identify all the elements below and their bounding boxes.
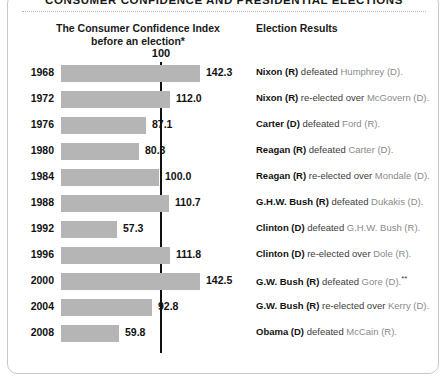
chart-row: 197687.1Carter (D) defeated Ford (R). (8, 114, 440, 140)
row-year-label: 2000 (22, 274, 54, 286)
row-bar (61, 65, 200, 82)
row-bar (61, 247, 170, 264)
election-result-text: G.W. Bush (R) defeated Gore (D).** (256, 274, 438, 287)
election-result-text: Clinton (D) defeated G.H.W. Bush (R). (256, 222, 438, 233)
result-verb: re-elected over (319, 300, 388, 311)
loser-name: Gore (D). (362, 276, 402, 287)
result-verb: defeated (298, 66, 340, 77)
winner-name: Nixon (R) (256, 66, 298, 77)
election-result-text: Reagan (R) re-elected over Mondale (D). (256, 170, 438, 181)
row-year-label: 2008 (22, 326, 54, 338)
election-result-text: G.H.W. Bush (R) defeated Dukakis (D). (256, 196, 438, 207)
right-column-header: Election Results (256, 22, 436, 34)
row-bar (61, 299, 152, 316)
reference-value-label: 100 (138, 47, 184, 59)
result-verb: defeated (300, 118, 342, 129)
bar-fill (61, 117, 146, 134)
bar-value-label: 92.8 (158, 300, 178, 312)
row-year-label: 1980 (22, 144, 54, 156)
bar-value-label: 142.3 (206, 66, 232, 78)
bar-value-label: 111.8 (176, 248, 201, 260)
row-year-label: 1992 (22, 222, 54, 234)
chart-row: 200492.8G.W. Bush (R) re-elected over Ke… (8, 296, 440, 322)
row-year-label: 1996 (22, 248, 54, 260)
election-result-text: G.W. Bush (R) re-elected over Kerry (D). (256, 300, 438, 311)
result-verb: re-elected over (298, 92, 367, 103)
bar-fill (61, 247, 170, 264)
chart-title: CONSUMER CONFIDENCE AND PRESIDENTIAL ELE… (8, 0, 440, 6)
bar-value-label: 80.3 (145, 144, 165, 156)
chart-row: 2000142.5G.W. Bush (R) defeated Gore (D)… (8, 270, 440, 296)
loser-name: Ford (R). (342, 118, 380, 129)
row-bar (61, 273, 200, 290)
election-result-text: Reagan (R) defeated Carter (D). (256, 144, 438, 155)
loser-name: Kerry (D). (388, 300, 429, 311)
result-verb: defeated (304, 326, 346, 337)
chart-row: 1984100.0Reagan (R) re-elected over Mond… (8, 166, 440, 192)
winner-name: G.H.W. Bush (R) (256, 196, 329, 207)
winner-name: Clinton (D) (256, 222, 305, 233)
bar-value-label: 100.0 (165, 170, 191, 182)
bar-fill (61, 195, 169, 212)
bar-fill (61, 143, 139, 160)
result-verb: defeated (319, 276, 361, 287)
bar-value-label: 59.8 (125, 326, 145, 338)
winner-name: Reagan (R) (256, 144, 306, 155)
chart-row: 1996111.8Clinton (D) re-elected over Dol… (8, 244, 440, 270)
result-verb: defeated (306, 144, 348, 155)
row-year-label: 1988 (22, 196, 54, 208)
loser-name: Carter (D). (348, 144, 393, 155)
winner-name: Obama (D) (256, 326, 304, 337)
row-year-label: 2004 (22, 300, 54, 312)
loser-name: G.H.W. Bush (R). (347, 222, 420, 233)
winner-name: Reagan (R) (256, 170, 306, 181)
bar-value-label: 142.5 (206, 274, 232, 286)
row-bar (61, 143, 139, 160)
bar-fill (61, 91, 170, 108)
row-bar (61, 169, 159, 186)
loser-name: Dole (R). (373, 248, 411, 259)
left-column-header: The Consumer Confidence Index before an … (38, 22, 238, 48)
election-result-text: Nixon (R) re-elected over McGovern (D). (256, 92, 438, 103)
winner-name: Clinton (D) (256, 248, 305, 259)
election-result-text: Carter (D) defeated Ford (R). (256, 118, 438, 129)
result-verb: re-elected over (306, 170, 375, 181)
election-result-text: Nixon (R) defeated Humphrey (D). (256, 66, 438, 77)
chart-row: 199257.3Clinton (D) defeated G.H.W. Bush… (8, 218, 440, 244)
loser-name: McCain (R). (346, 326, 397, 337)
chart-panel: CONSUMER CONFIDENCE AND PRESIDENTIAL ELE… (7, 0, 439, 374)
bar-fill (61, 325, 119, 342)
row-year-label: 1972 (22, 92, 54, 104)
row-year-label: 1968 (22, 66, 54, 78)
loser-name: Humphrey (D). (340, 66, 402, 77)
bar-fill (61, 221, 117, 238)
row-bar (61, 221, 117, 238)
row-bar (61, 325, 119, 342)
chart-row: 200859.8Obama (D) defeated McCain (R). (8, 322, 440, 348)
loser-name: Mondale (D). (375, 170, 430, 181)
winner-name: G.W. Bush (R) (256, 276, 319, 287)
bar-fill (61, 65, 200, 82)
bar-fill (61, 273, 200, 290)
title-divider (22, 11, 426, 12)
bar-value-label: 110.7 (175, 196, 201, 208)
chart-row: 1988110.7G.H.W. Bush (R) defeated Dukaki… (8, 192, 440, 218)
bar-value-label: 87.1 (152, 118, 172, 130)
chart-row: 1968142.3Nixon (R) defeated Humphrey (D)… (8, 62, 440, 88)
result-verb: defeated (329, 196, 371, 207)
result-verb: defeated (305, 222, 347, 233)
chart-row: 1972112.0Nixon (R) re-elected over McGov… (8, 88, 440, 114)
row-year-label: 1976 (22, 118, 54, 130)
bar-value-label: 57.3 (123, 222, 143, 234)
result-verb: re-elected over (305, 248, 374, 259)
election-result-text: Clinton (D) re-elected over Dole (R). (256, 248, 438, 259)
left-column-header-line1: The Consumer Confidence Index (56, 22, 220, 34)
winner-name: Nixon (R) (256, 92, 298, 103)
election-result-text: Obama (D) defeated McCain (R). (256, 326, 438, 337)
bar-fill (61, 299, 152, 316)
chart-rows: 1968142.3Nixon (R) defeated Humphrey (D)… (8, 62, 440, 348)
row-bar (61, 91, 170, 108)
bar-fill (61, 169, 159, 186)
winner-name: G.W. Bush (R) (256, 300, 319, 311)
row-bar (61, 117, 146, 134)
